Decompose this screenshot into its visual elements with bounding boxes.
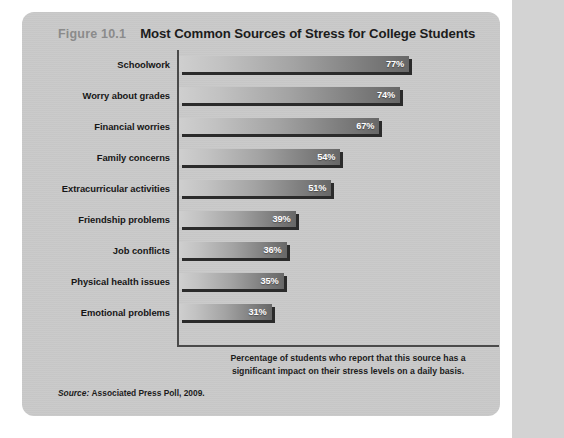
bar: 74% bbox=[179, 87, 400, 103]
bar-rows-container: Schoolwork77%Worry about grades74%Financ… bbox=[22, 56, 500, 335]
bar-row: Schoolwork77% bbox=[22, 56, 500, 87]
bar-value-label: 51% bbox=[308, 183, 331, 193]
figure-number: Figure 10.1 bbox=[58, 27, 126, 41]
figure-title: Most Common Sources of Stress for Colleg… bbox=[140, 26, 475, 41]
bar-value-label: 54% bbox=[317, 152, 340, 162]
bar-category-label: Financial worries bbox=[0, 121, 170, 132]
bar-row: Job conflicts36% bbox=[22, 242, 500, 273]
caption-line-1: Percentage of students who report that t… bbox=[197, 352, 499, 365]
bar: 31% bbox=[179, 304, 272, 320]
bar-row: Physical health issues35% bbox=[22, 273, 500, 304]
bar-track: 54% bbox=[179, 149, 500, 171]
bar-value-label: 77% bbox=[386, 59, 409, 69]
bar-category-label: Worry about grades bbox=[0, 90, 170, 101]
bar: 35% bbox=[179, 273, 284, 289]
x-axis-line bbox=[177, 345, 499, 347]
bar-category-label: Extracurricular activities bbox=[0, 183, 170, 194]
figure-panel: Figure 10.1 Most Common Sources of Stres… bbox=[22, 12, 500, 416]
bar-track: 74% bbox=[179, 87, 500, 109]
bar-track: 67% bbox=[179, 118, 500, 140]
bar-row: Friendship problems39% bbox=[22, 211, 500, 242]
page-bottom-gutter bbox=[0, 414, 500, 438]
bar: 77% bbox=[179, 56, 409, 72]
bar-category-label: Schoolwork bbox=[0, 59, 170, 70]
bar-row: Worry about grades74% bbox=[22, 87, 500, 118]
bar: 39% bbox=[179, 211, 296, 227]
source-note: Source: Associated Press Poll, 2009. bbox=[58, 388, 205, 398]
bar-category-label: Job conflicts bbox=[0, 245, 170, 256]
bar: 67% bbox=[179, 118, 379, 134]
bar-row: Family concerns54% bbox=[22, 149, 500, 180]
bar-row: Emotional problems31% bbox=[22, 304, 500, 335]
source-label: Source: bbox=[58, 388, 89, 398]
bar-row: Financial worries67% bbox=[22, 118, 500, 149]
bar: 54% bbox=[179, 149, 340, 165]
figure-header: Figure 10.1 Most Common Sources of Stres… bbox=[58, 26, 475, 41]
bar-category-label: Family concerns bbox=[0, 152, 170, 163]
bar-value-label: 35% bbox=[261, 276, 284, 286]
bar-category-label: Emotional problems bbox=[0, 307, 170, 318]
bar-track: 35% bbox=[179, 273, 500, 295]
chart-caption: Percentage of students who report that t… bbox=[197, 352, 499, 377]
bar-value-label: 36% bbox=[264, 245, 287, 255]
bar-category-label: Friendship problems bbox=[0, 214, 170, 225]
bar-category-label: Physical health issues bbox=[0, 276, 170, 287]
bar-value-label: 31% bbox=[249, 307, 272, 317]
bar-value-label: 67% bbox=[356, 121, 379, 131]
bar-track: 77% bbox=[179, 56, 500, 78]
bar-track: 36% bbox=[179, 242, 500, 264]
bar-track: 31% bbox=[179, 304, 500, 326]
bar-track: 39% bbox=[179, 211, 500, 233]
source-text: Associated Press Poll, 2009. bbox=[92, 388, 205, 398]
caption-line-2: significant impact on their stress level… bbox=[197, 365, 499, 378]
bar-value-label: 39% bbox=[272, 214, 295, 224]
bar-track: 51% bbox=[179, 180, 500, 202]
bar-value-label: 74% bbox=[377, 90, 400, 100]
bar-row: Extracurricular activities51% bbox=[22, 180, 500, 211]
bar: 51% bbox=[179, 180, 331, 196]
bar: 36% bbox=[179, 242, 287, 258]
